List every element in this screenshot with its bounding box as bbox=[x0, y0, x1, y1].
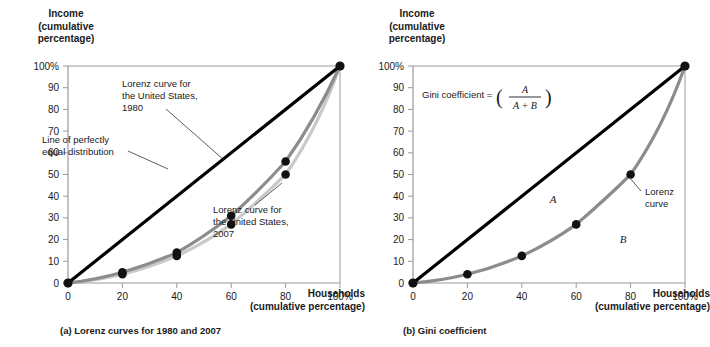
x-tick-label: 0 bbox=[410, 291, 416, 302]
x-tick-label: 40 bbox=[171, 291, 183, 302]
y-tick-label: 30 bbox=[393, 212, 405, 223]
y-axis-ticks bbox=[63, 66, 68, 283]
data-point bbox=[173, 248, 182, 257]
lorenz-curve-figure: Income (cumulative percentage) Household… bbox=[0, 0, 710, 347]
area-label-a: A bbox=[549, 193, 557, 205]
panel-a-lorenz-curves: Income (cumulative percentage) Household… bbox=[0, 0, 355, 347]
y-tick-label: 10 bbox=[48, 256, 60, 267]
equality-line-annotation: Line of perfectly equal distribution bbox=[42, 134, 168, 169]
y-tick-label: 20 bbox=[393, 234, 405, 245]
leader-line bbox=[255, 183, 282, 205]
paren-open: ( bbox=[496, 86, 503, 109]
x-axis-tick-labels: 0 20 40 60 80 100% bbox=[65, 291, 353, 302]
area-label-b: B bbox=[620, 233, 627, 245]
x-tick-label: 40 bbox=[516, 291, 528, 302]
y-tick-label: 40 bbox=[393, 191, 405, 202]
lorenz-1980-annotation: Lorenz curve for the United States, 1980 bbox=[122, 78, 224, 160]
y-axis-tick-labels: 100% 90 80 70 60 50 40 30 20 10 0 bbox=[33, 61, 59, 289]
y-tick-label: 10 bbox=[393, 256, 405, 267]
y-tick-label: 90 bbox=[393, 82, 405, 93]
origin-data-point bbox=[63, 278, 72, 287]
data-point bbox=[572, 220, 581, 229]
y-tick-label: 100% bbox=[33, 61, 59, 72]
panel-a-caption: (a) Lorenz curves for 1980 and 2007 bbox=[60, 325, 221, 336]
y-tick-label: 50 bbox=[393, 169, 405, 180]
gini-formula-numerator: A bbox=[521, 84, 529, 95]
annotation-line1: Lorenz curve for bbox=[213, 204, 282, 215]
gini-formula-denominator: A + B bbox=[512, 100, 537, 111]
x-axis-tick-labels: 0 20 40 60 80 100% bbox=[410, 291, 698, 302]
y-tick-label: 90 bbox=[48, 82, 60, 93]
annotation-line1: Lorenz bbox=[645, 186, 674, 197]
y-tick-label: 0 bbox=[53, 278, 59, 289]
x-axis-ticks bbox=[413, 283, 685, 288]
y-tick-label: 40 bbox=[48, 191, 60, 202]
leader-line bbox=[128, 151, 168, 169]
paren-close: ) bbox=[545, 86, 552, 109]
lorenz-2007-annotation: Lorenz curve for the United States, 2007 bbox=[213, 183, 289, 239]
y-tick-label: 0 bbox=[398, 278, 404, 289]
x-tick-label: 80 bbox=[280, 291, 292, 302]
data-point bbox=[281, 170, 290, 179]
origin-data-point bbox=[408, 278, 417, 287]
data-point bbox=[518, 252, 527, 261]
y-tick-label: 80 bbox=[48, 104, 60, 115]
x-tick-label: 60 bbox=[571, 291, 583, 302]
x-tick-label: 100% bbox=[327, 291, 353, 302]
x-tick-label: 20 bbox=[117, 291, 129, 302]
lorenz-curve-annotation: Lorenz curve bbox=[629, 177, 674, 209]
annotation-line2: equal distribution bbox=[42, 146, 114, 157]
annotation-line2: the United States, bbox=[122, 90, 198, 101]
y-axis-ticks bbox=[408, 66, 413, 283]
endpoint-data-point bbox=[335, 61, 344, 70]
annotation-line1: Lorenz curve for bbox=[122, 78, 191, 89]
data-point bbox=[463, 270, 472, 279]
x-axis-ticks bbox=[68, 283, 340, 288]
annotation-line3: 2007 bbox=[213, 228, 234, 239]
data-point bbox=[626, 170, 635, 179]
y-tick-label: 70 bbox=[393, 126, 405, 137]
y-tick-label: 20 bbox=[48, 234, 60, 245]
panel-b-caption: (b) Gini coefficient bbox=[403, 325, 486, 336]
x-tick-label: 100% bbox=[672, 291, 698, 302]
annotation-line1: Line of perfectly bbox=[42, 134, 109, 145]
gini-formula-label: Gini coefficient = bbox=[422, 89, 493, 100]
annotation-line2: curve bbox=[645, 198, 668, 209]
y-axis-tick-labels: 100% 90 80 70 60 50 40 30 20 10 0 bbox=[378, 61, 404, 289]
x-tick-label: 0 bbox=[65, 291, 71, 302]
endpoint-data-point bbox=[680, 61, 689, 70]
gini-formula: Gini coefficient = ( A A + B ) bbox=[422, 84, 552, 111]
y-tick-label: 100% bbox=[378, 61, 404, 72]
x-tick-label: 60 bbox=[226, 291, 238, 302]
x-tick-label: 80 bbox=[625, 291, 637, 302]
data-point bbox=[118, 268, 127, 277]
y-tick-label: 30 bbox=[48, 212, 60, 223]
annotation-line2: the United States, bbox=[213, 216, 289, 227]
y-tick-label: 80 bbox=[393, 104, 405, 115]
annotation-line3: 1980 bbox=[122, 102, 143, 113]
panel-a-plot: 100% 90 80 70 60 50 40 30 20 10 0 bbox=[0, 0, 355, 347]
panel-b-plot: 100% 90 80 70 60 50 40 30 20 10 0 bbox=[355, 0, 710, 347]
data-point bbox=[281, 157, 290, 166]
leader-line bbox=[629, 177, 641, 191]
panel-b-gini-coefficient: Income (cumulative percentage) Household… bbox=[355, 0, 710, 347]
equality-line-path bbox=[68, 66, 340, 283]
y-tick-label: 60 bbox=[393, 147, 405, 158]
leader-line bbox=[166, 109, 224, 160]
x-tick-label: 20 bbox=[462, 291, 474, 302]
y-tick-label: 50 bbox=[48, 169, 60, 180]
